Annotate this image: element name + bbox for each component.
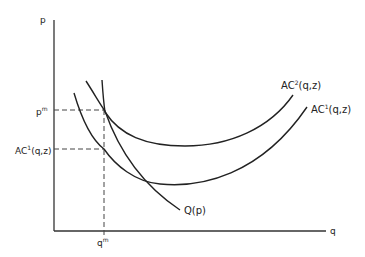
pm-label: pm	[36, 106, 48, 117]
qm-label: qm	[97, 237, 109, 248]
ac1-base: AC	[311, 104, 325, 115]
diagram-canvas	[0, 0, 365, 257]
ac1-tick-base: AC	[15, 146, 27, 156]
ac2-base: AC	[281, 80, 295, 91]
ac1-tick-rest: (q,z)	[31, 146, 51, 156]
y-axis-label: p	[40, 16, 46, 25]
ac2-label: AC2(q,z)	[281, 80, 321, 91]
ac1-curve	[74, 93, 307, 185]
qm-sup: m	[103, 236, 109, 243]
ac2-rest: (q,z)	[298, 80, 321, 91]
ac1-tick-label: AC1(q,z)	[15, 145, 51, 156]
x-axis-label: q	[330, 227, 336, 236]
ac1-label: AC1(q,z)	[311, 104, 351, 115]
ac2-curve	[102, 80, 293, 146]
ac1-rest: (q,z)	[328, 104, 351, 115]
pm-sup: m	[42, 105, 48, 112]
demand-label: Q(p)	[184, 206, 206, 216]
economics-diagram: p q pm AC1(q,z) qm AC2(q,z) AC1(q,z) Q(p…	[0, 0, 365, 257]
